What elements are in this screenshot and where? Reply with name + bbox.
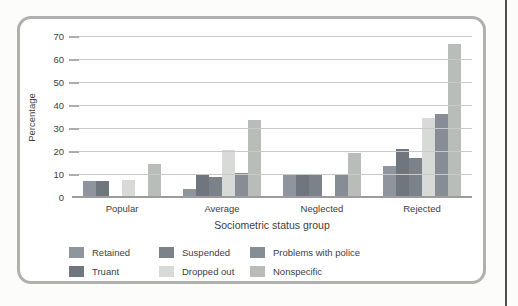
legend-item-suspended: Suspended xyxy=(159,243,250,262)
legend-item-problems-with-police: Problems with police xyxy=(250,243,340,262)
y-tick-label-0: 0 xyxy=(59,193,64,203)
bar-average-truant xyxy=(196,175,209,198)
bar-neglected-nonspecific xyxy=(348,153,361,198)
gridline-70 xyxy=(72,36,472,37)
y-tick-mark-70 xyxy=(69,36,79,38)
bar-average-nonspecific xyxy=(248,120,261,198)
bar-rejected-retained xyxy=(383,166,396,198)
y-tick-label-70: 70 xyxy=(53,32,64,42)
y-tick-mark-20 xyxy=(69,151,79,153)
legend-label-retained: Retained xyxy=(92,247,130,258)
y-tick-label-20: 20 xyxy=(53,147,64,157)
legend-item-truant: Truant xyxy=(69,262,159,281)
gridline-20 xyxy=(72,151,472,152)
x-tick-label-neglected: Neglected xyxy=(272,203,372,214)
legend-swatch-problems-with-police xyxy=(250,247,265,258)
gridline-0 xyxy=(72,196,472,198)
legend-column-2: SuspendedDropped out xyxy=(159,243,250,281)
bar-rejected-suspended xyxy=(409,158,422,198)
figure-card: Percentage PopularAverageNeglectedReject… xyxy=(17,16,486,284)
page-edge-line xyxy=(505,0,507,306)
legend-item-dropped-out: Dropped out xyxy=(159,262,250,281)
plot-area: Percentage PopularAverageNeglectedReject… xyxy=(72,37,472,198)
legend-item-retained: Retained xyxy=(69,243,159,262)
legend-label-problems-with-police: Problems with police xyxy=(273,247,360,258)
x-tick-label-average: Average xyxy=(172,203,272,214)
legend-swatch-nonspecific xyxy=(250,266,265,277)
bar-neglected-problems-with-police xyxy=(335,175,348,198)
y-tick-mark-10 xyxy=(69,174,79,176)
y-tick-label-30: 30 xyxy=(53,124,64,134)
legend-label-dropped-out: Dropped out xyxy=(182,266,234,277)
y-tick-label-40: 40 xyxy=(53,101,64,111)
y-tick-label-60: 60 xyxy=(53,55,64,65)
legend-swatch-suspended xyxy=(159,247,174,258)
legend-column-1: RetainedTruant xyxy=(69,243,159,281)
gridline-40 xyxy=(72,105,472,106)
legend-label-nonspecific: Nonspecific xyxy=(273,266,322,277)
gridline-50 xyxy=(72,82,472,83)
gridline-30 xyxy=(72,128,472,129)
legend-column-3: Problems with policeNonspecific xyxy=(250,243,340,281)
legend-swatch-truant xyxy=(69,266,84,277)
bar-neglected-truant xyxy=(296,175,309,198)
bar-neglected-retained xyxy=(283,175,296,198)
legend-label-truant: Truant xyxy=(92,266,119,277)
x-axis-title: Sociometric status group xyxy=(72,219,472,231)
x-tick-label-rejected: Rejected xyxy=(372,203,472,214)
bar-neglected-suspended xyxy=(309,175,322,198)
bar-rejected-dropped-out xyxy=(422,118,435,199)
y-tick-mark-50 xyxy=(69,82,79,84)
y-tick-mark-40 xyxy=(69,105,79,107)
bar-average-suspended xyxy=(209,177,222,198)
gridline-10 xyxy=(72,174,472,175)
y-tick-mark-30 xyxy=(69,128,79,130)
gridline-60 xyxy=(72,59,472,60)
x-tick-label-popular: Popular xyxy=(72,203,172,214)
bar-popular-nonspecific xyxy=(148,164,161,199)
legend-item-nonspecific: Nonspecific xyxy=(250,262,340,281)
legend-label-suspended: Suspended xyxy=(182,247,230,258)
bar-rejected-problems-with-police xyxy=(435,114,448,198)
y-tick-label-10: 10 xyxy=(53,170,64,180)
legend: RetainedTruantSuspendedDropped outProble… xyxy=(69,243,340,281)
legend-swatch-retained xyxy=(69,247,84,258)
y-tick-mark-60 xyxy=(69,59,79,61)
y-tick-label-50: 50 xyxy=(53,78,64,88)
y-axis-title: Percentage xyxy=(25,73,38,163)
legend-swatch-dropped-out xyxy=(159,266,174,277)
bar-average-problems-with-police xyxy=(235,173,248,198)
